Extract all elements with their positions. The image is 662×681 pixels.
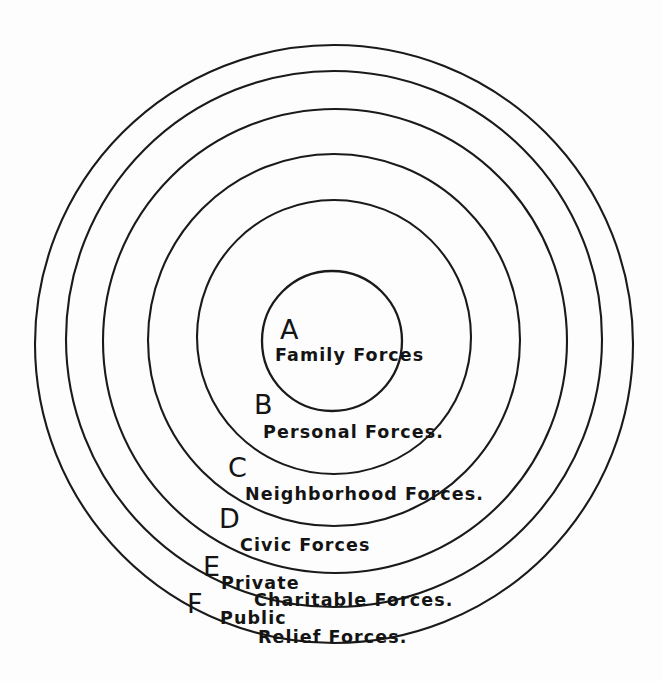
ring-letter-d: D <box>219 505 240 532</box>
ring-caption-e-line-2: Charitable Forces. <box>254 592 453 610</box>
ring-letter-a: A <box>280 316 298 343</box>
ring-letter-e: E <box>203 553 220 580</box>
ring-caption-f-line-1: Public <box>220 610 287 628</box>
ring-letter-f: F <box>187 590 203 617</box>
ring-letter-c: C <box>228 454 247 481</box>
ring-caption-f-line-2: Relief Forces. <box>258 629 408 647</box>
ring-caption-a: Family Forces <box>275 347 424 365</box>
concentric-forces-diagram: A Family Forces B Personal Forces. C Nei… <box>0 0 662 681</box>
ring-caption-d: Civic Forces <box>240 537 370 555</box>
ring-label-layer: A Family Forces B Personal Forces. C Nei… <box>0 0 662 681</box>
ring-caption-c: Neighborhood Forces. <box>245 486 484 504</box>
ring-caption-b: Personal Forces. <box>263 424 444 442</box>
ring-letter-b: B <box>254 391 273 418</box>
